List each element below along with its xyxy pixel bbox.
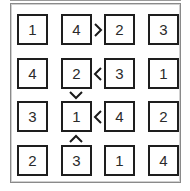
cell-r2c3[interactable]: 2 xyxy=(148,101,179,132)
cell-r1c3[interactable]: 1 xyxy=(148,58,179,89)
cell-r0c0[interactable]: 1 xyxy=(17,14,48,45)
frame-top-edge xyxy=(10,0,181,1)
chevron-up-icon xyxy=(66,134,86,144)
cell-r0c2[interactable]: 2 xyxy=(104,14,135,45)
cell-r1c2[interactable]: 3 xyxy=(104,58,135,89)
chevron-down-icon xyxy=(66,90,86,100)
cell-r3c1[interactable]: 3 xyxy=(61,145,92,176)
cell-r0c3[interactable]: 3 xyxy=(148,14,179,45)
cell-r2c2[interactable]: 4 xyxy=(104,101,135,132)
cell-r1c0[interactable]: 4 xyxy=(17,58,48,89)
cell-r3c2[interactable]: 1 xyxy=(104,145,135,176)
cell-r3c3[interactable]: 4 xyxy=(148,145,179,176)
cell-r3c0[interactable]: 2 xyxy=(17,145,48,176)
cell-r2c1[interactable]: 1 xyxy=(61,101,92,132)
greater-than-icon xyxy=(92,20,104,40)
cell-r1c1[interactable]: 2 xyxy=(61,58,92,89)
less-than-icon xyxy=(92,107,104,127)
less-than-icon xyxy=(92,64,104,84)
cell-r2c0[interactable]: 3 xyxy=(17,101,48,132)
cell-r0c1[interactable]: 4 xyxy=(61,14,92,45)
